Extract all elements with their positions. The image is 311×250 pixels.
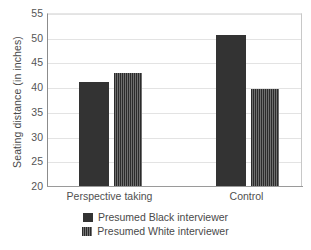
x-axis-category-label: Perspective taking [67,190,153,202]
legend-label: Presumed Black interviewer [98,211,228,223]
bar [216,35,246,186]
y-axis-tick-label: 25 [0,155,43,167]
y-axis-tick-label: 40 [0,81,43,93]
x-axis-line [47,186,303,187]
gridline [48,39,301,40]
x-axis-category-label: Control [230,190,264,202]
bar [79,82,109,186]
y-axis-tick-label: 55 [0,7,43,19]
legend-swatch-icon [82,227,92,236]
y-axis-tick-label: 45 [0,56,43,68]
bar [251,89,279,186]
bar-chart-figure: Seating distance (in inches) 20253035404… [0,0,311,250]
y-axis-tick-label: 35 [0,106,43,118]
bar [114,73,142,186]
legend-swatch-icon [83,213,93,222]
legend-label: Presumed White interviewer [97,225,228,237]
y-axis-tick-label: 30 [0,131,43,143]
plot-area [47,13,302,186]
gridline [48,63,301,64]
gridline [48,14,301,15]
y-axis-tick-label: 50 [0,32,43,44]
chart-legend: Presumed Black interviewerPresumed White… [0,210,311,238]
y-axis-tick-label: 20 [0,180,43,192]
legend-item[interactable]: Presumed Black interviewer [0,210,311,224]
legend-item[interactable]: Presumed White interviewer [0,224,311,238]
